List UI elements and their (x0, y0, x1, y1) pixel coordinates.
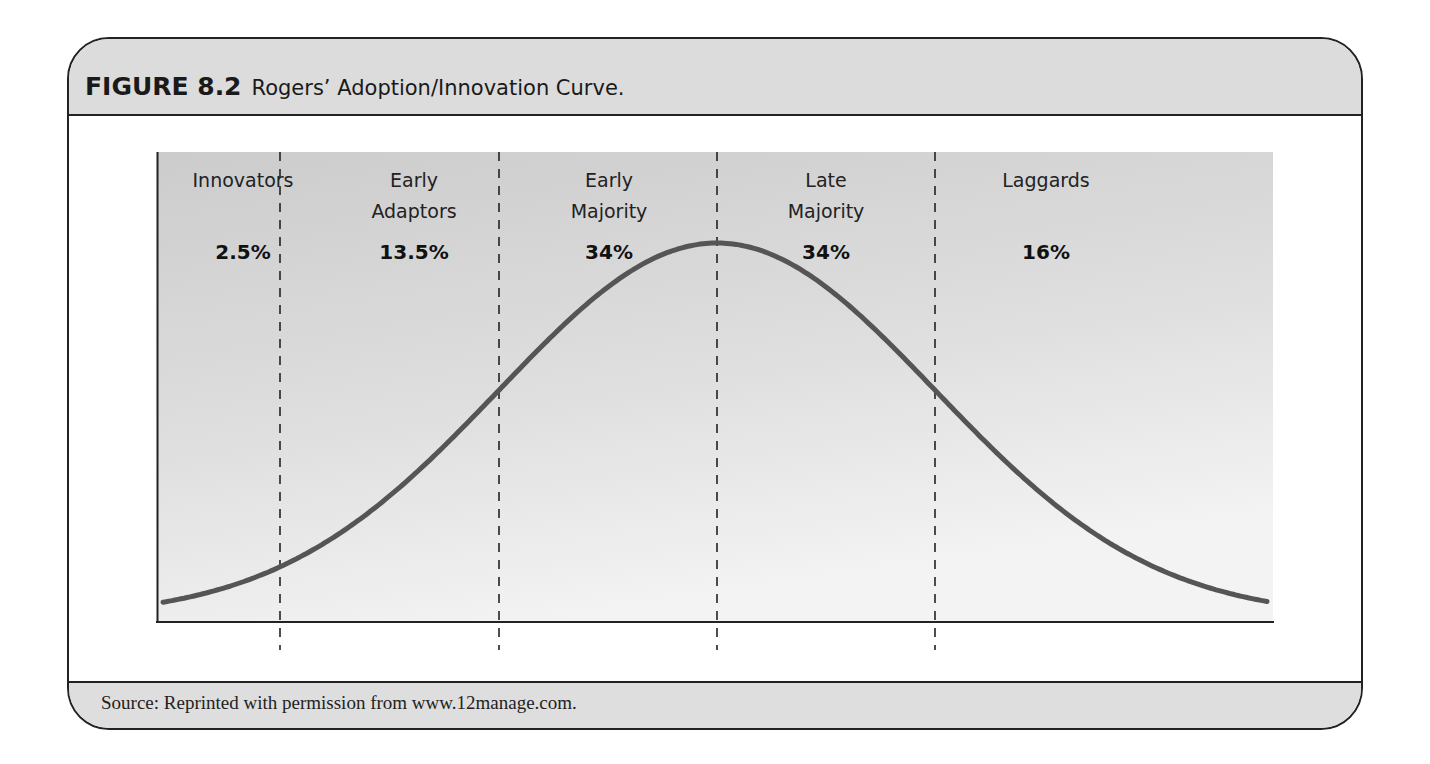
segment-name-line2: Majority (571, 200, 648, 222)
segment-percent: 13.5% (379, 240, 448, 264)
segment-percent: 34% (802, 240, 850, 264)
segment-name: Early (390, 169, 438, 191)
chart-panel (157, 152, 1273, 622)
segment-name: Innovators (193, 169, 294, 191)
segment-name: Late (805, 169, 846, 191)
segment-name-line2: Majority (788, 200, 865, 222)
segment-name: Laggards (1002, 169, 1089, 191)
segment-name: Early (585, 169, 633, 191)
segment-percent: 16% (1022, 240, 1070, 264)
segment-percent: 2.5% (215, 240, 270, 264)
segment-name-line2: Adaptors (371, 200, 456, 222)
adoption-curve-chart: Innovators2.5%EarlyAdaptors13.5%EarlyMaj… (0, 0, 1430, 764)
segment-percent: 34% (585, 240, 633, 264)
